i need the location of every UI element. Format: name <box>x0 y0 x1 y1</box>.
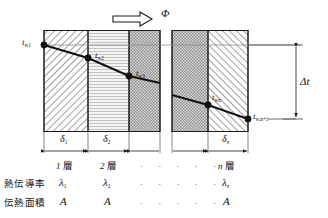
witness-lines <box>44 132 248 153</box>
heat-flow-arrow <box>113 12 152 26</box>
heat-flow-symbol: Φ <box>161 8 169 19</box>
node-twn <box>205 102 212 109</box>
layer-label-n: n 層 <box>218 161 235 171</box>
node-twn1 <box>245 116 252 123</box>
row-label-thermal-conductivity: 熱伝導率 <box>4 179 45 189</box>
label-tw3: tw3 <box>136 69 145 78</box>
layer-2-body <box>88 31 129 131</box>
label-tw1: tw1 <box>22 38 31 47</box>
node-tw1 <box>41 42 48 49</box>
label-delta-2: δ2 <box>103 134 110 144</box>
wall-layers <box>44 31 248 131</box>
label-tw2: tw2 <box>95 51 104 60</box>
lambda-1: λ1 <box>59 177 66 188</box>
layer-n-minus-1-body <box>172 31 208 131</box>
node-tw3 <box>126 73 133 80</box>
row-label-heat-transfer-area: 伝熱面積 <box>4 198 45 208</box>
node-tw2 <box>85 55 92 62</box>
area-ellipsis: · · · · · <box>140 199 223 208</box>
area-2: A <box>104 196 111 207</box>
label-delta-n: δn <box>222 134 229 144</box>
label-delta-t: Δt <box>300 76 310 87</box>
label-twn: twn <box>212 93 221 102</box>
label-twn1: tw,n+1 <box>253 112 268 121</box>
layer-ellipsis: · · · · · <box>140 162 223 171</box>
layer-label-2: 2 層 <box>100 161 117 171</box>
label-delta-1: δ1 <box>60 134 67 144</box>
area-n: A <box>223 196 230 207</box>
lambda-ellipsis: · · · · · <box>140 180 223 189</box>
layer-label-1: 1 層 <box>56 161 73 171</box>
figure-canvas: Φ tw1 tw2 tw3 twn tw,n+1 Δt δ1 δ2 δn 1 層… <box>0 0 328 218</box>
lambda-2: λ2 <box>103 177 110 188</box>
delta-t-dimension <box>248 45 303 119</box>
lambda-n: λn <box>222 177 229 188</box>
area-1: A <box>60 196 67 207</box>
